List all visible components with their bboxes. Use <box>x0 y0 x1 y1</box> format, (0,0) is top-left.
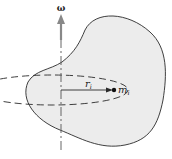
omega-arrow-head-icon <box>57 14 65 24</box>
omega-label: ω <box>57 3 66 13</box>
mass-point <box>112 88 116 92</box>
rigid-body-diagram: ω ri mi <box>0 0 172 159</box>
rigid-body-shape <box>26 16 166 146</box>
